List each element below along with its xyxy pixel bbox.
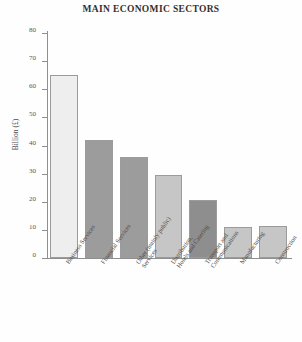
y-axis-title: Billion (£) bbox=[11, 90, 20, 180]
bar-3 bbox=[120, 157, 148, 258]
chart-title: MAIN ECONOMIC SECTORS bbox=[0, 4, 302, 14]
bar-2 bbox=[85, 140, 113, 258]
x-axis-line bbox=[44, 258, 292, 259]
y-tick-label: 80 bbox=[6, 30, 36, 31]
y-tick-label: 20 bbox=[6, 199, 36, 200]
y-tick-label: 50 bbox=[6, 114, 36, 115]
y-tick-label: 60 bbox=[6, 86, 36, 87]
y-tick-label: 40 bbox=[6, 143, 36, 144]
y-tick-label: 10 bbox=[6, 227, 36, 228]
y-tick-mark bbox=[42, 258, 47, 259]
y-tick-label: 30 bbox=[6, 171, 36, 172]
y-tick-label: 0 bbox=[6, 255, 36, 256]
chart-figure: MAIN ECONOMIC SECTORS Billion (£) 010203… bbox=[0, 0, 302, 342]
y-tick-label: 70 bbox=[6, 58, 36, 59]
bar-1 bbox=[50, 75, 78, 258]
